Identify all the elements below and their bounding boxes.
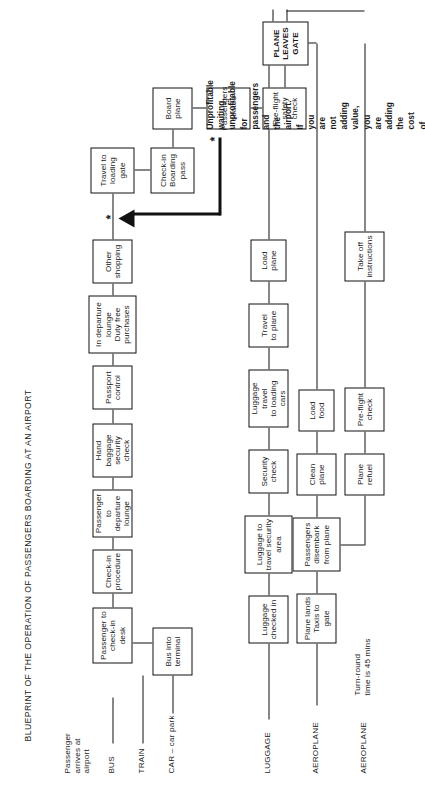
- node-travel-to-loading-gate[interactable]: Travel to loading gate: [90, 147, 134, 193]
- node-load-plane[interactable]: Load plane: [250, 239, 286, 281]
- swimlane-label-car: CAR – car park: [166, 715, 176, 773]
- lane-line-luggage: [268, 643, 269, 719]
- gate-connect-aeroplane2: [286, 10, 364, 11]
- link-security-check-to-loading-cars: [268, 427, 269, 449]
- link-bus-riser: [132, 642, 152, 643]
- node-luggage-to-travel-security-area[interactable]: Luggage to travel security area: [244, 515, 292, 573]
- swimlane-label-aeroplane-2: AEROPLANE: [358, 722, 368, 773]
- swimlane-label-aeroplane-1: AEROPLANE: [310, 722, 320, 773]
- swimlane-label-passenger: Passenger arrives at airport: [62, 733, 91, 774]
- link-plane-lands-to-disembark: [316, 571, 317, 593]
- lane-line-car: [172, 675, 173, 713]
- node-in-departure-lounge[interactable]: In departure lounge Duty free purchases: [88, 295, 136, 353]
- link-boarding-pass-to-board-plane: [172, 129, 173, 147]
- node-plane-refuel[interactable]: Plane refuel: [344, 453, 384, 495]
- node-passenger-to-departure-lounge[interactable]: Passenger to departure lounge: [92, 489, 132, 537]
- node-plane-lands-taxis-to-gate[interactable]: Plane lands Taxis to gate: [296, 593, 336, 643]
- link-load-plane-to-gate-lane: [268, 43, 269, 239]
- gate-stub-top: [272, 9, 273, 21]
- link-load-food-to-gate-lane: [316, 43, 317, 389]
- node-passengers-disembark-from-plane[interactable]: Passengers disembark from plane: [292, 517, 340, 571]
- node-preflight-check[interactable]: Pre-flight check: [344, 387, 384, 431]
- node-passport-control[interactable]: Passport control: [92, 365, 132, 409]
- link-clean-plane-to-load-food: [316, 431, 317, 453]
- node-bus-into-terminal[interactable]: Bus into terminal: [152, 627, 192, 675]
- swimlane-label-train: TRAIN: [136, 748, 146, 773]
- link-procedure-to-departure-lounge: [112, 537, 113, 549]
- node-checkin-boarding-pass[interactable]: Check-in Boarding pass: [150, 147, 194, 193]
- node-take-off-instructions[interactable]: Take off instructions: [344, 231, 384, 281]
- note-marker-star-flow: *: [104, 214, 116, 219]
- link-luggage-checked-to-security-area: [268, 573, 269, 595]
- lane-line-aeroplane-1: [316, 643, 317, 705]
- link-travel-to-plane-to-load-plane: [268, 281, 269, 303]
- link-gate-to-boarding-pass: [134, 169, 150, 170]
- gate-connect-aeroplane2-stub: [286, 9, 287, 21]
- node-security-check[interactable]: Security check: [248, 449, 288, 493]
- swimlane-label-luggage: LUGGAGE: [262, 732, 272, 773]
- note-marker-star-legend: *: [208, 136, 220, 141]
- page-title: BLUEPRINT OF THE OPERATION OF PASSENGERS…: [22, 389, 32, 741]
- link-hand-baggage-to-passport: [112, 409, 113, 423]
- link-security-area-to-security-check: [268, 493, 269, 515]
- link-departure-lounge-to-hand-baggage: [112, 477, 113, 489]
- feedback-arrow-vertical: [132, 212, 220, 215]
- node-plane-leaves-gate[interactable]: PLANE LEAVES GATE: [262, 21, 308, 65]
- node-board-plane[interactable]: Board plane: [152, 87, 192, 129]
- link-disembark-to-clean-plane: [316, 495, 317, 517]
- lane-line-train: [142, 675, 143, 743]
- link-passport-to-departure-lounge-shop: [112, 353, 113, 365]
- link-refuel-lane-entry: [364, 495, 365, 545]
- node-luggage-checked-in[interactable]: Luggage checked in: [248, 595, 288, 643]
- link-checkin-desk-to-procedure: [112, 593, 113, 607]
- node-other-shopping[interactable]: Other shopping: [92, 239, 132, 283]
- link-lounge-to-other-shopping: [112, 283, 113, 295]
- feedback-arrowhead-icon: [118, 209, 138, 227]
- link-take-off-to-gate-lane: [364, 43, 365, 231]
- node-clean-plane[interactable]: Clean plane: [296, 453, 336, 495]
- blueprint-canvas: BLUEPRINT OF THE OPERATION OF PASSENGERS…: [0, 0, 425, 789]
- link-refuel-to-preflight-check: [364, 431, 365, 453]
- node-load-food[interactable]: Load food: [298, 389, 334, 431]
- swimlane-label-bus: BUS: [106, 756, 116, 773]
- node-checkin-procedure[interactable]: Check-in procedure: [92, 549, 132, 593]
- link-preflight-check-to-take-off: [364, 281, 365, 387]
- node-luggage-travel-to-loading-cars[interactable]: Luggage travel to loading cars: [248, 369, 288, 427]
- node-hand-baggage-security-check[interactable]: Hand baggage security check: [92, 423, 132, 477]
- node-passenger-to-checkin-desk[interactable]: Passenger to check-in desk: [92, 607, 132, 663]
- link-loading-cars-to-travel-to-plane: [268, 347, 269, 369]
- link-disembark-riser-to-refuel-lane: [340, 544, 364, 545]
- turn-round-time-note: Turn-round time is 45 mins: [352, 638, 371, 695]
- link-preflight-safety-to-plane-leaves-gate: [284, 65, 285, 87]
- feedback-arrow-horizontal: [218, 137, 221, 215]
- lane-line-bus: [112, 697, 113, 743]
- node-travel-to-plane[interactable]: Travel to plane: [248, 303, 288, 347]
